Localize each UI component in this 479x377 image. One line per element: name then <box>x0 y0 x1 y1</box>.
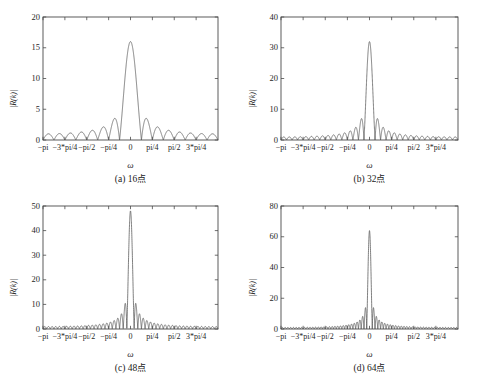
caption-unit-c: 点 <box>137 363 146 373</box>
y-tick-label-b: 40 <box>250 12 278 22</box>
x-tick-label-c: 3*pi/4 <box>174 332 218 341</box>
y-tick-label-c: 20 <box>12 274 40 284</box>
panel-b: |R(k)| ω (b) 32点 010203040−pi−3*pi/4−pi/… <box>239 0 479 188</box>
caption-unit-d: 点 <box>376 363 385 373</box>
x-axis-label-d: ω <box>251 349 479 359</box>
panel-a: |R(k)| ω (a) 16点 05101520−pi−3*pi/4−pi/2… <box>0 0 239 188</box>
y-tick-label-b: 20 <box>250 73 278 83</box>
x-axis-label-b: ω <box>251 160 479 170</box>
y-tick-label-a: 10 <box>12 73 40 83</box>
caption-text-b: (b) 32 <box>354 174 377 184</box>
caption-unit-a: 点 <box>137 174 146 184</box>
panel-caption-c: (c) 48点 <box>12 361 250 374</box>
x-tick-label-a: 3*pi/4 <box>174 143 218 152</box>
panel-c: |R(k)| ω (c) 48点 01020304050−pi−3*pi/4−p… <box>0 188 239 377</box>
y-tick-label-a: 15 <box>12 42 40 52</box>
panel-caption-d: (d) 64点 <box>251 361 479 374</box>
y-tick-label-c: 40 <box>12 225 40 235</box>
y-tick-label-d: 80 <box>250 201 278 211</box>
caption-text-d: (d) 64 <box>354 363 377 373</box>
y-tick-label-d: 20 <box>250 293 278 303</box>
caption-text-a: (a) 16 <box>115 174 137 184</box>
y-tick-label-b: 10 <box>250 104 278 114</box>
x-tick-label-b: 3*pi/4 <box>414 143 458 152</box>
y-tick-label-c: 50 <box>12 201 40 211</box>
caption-unit-b: 点 <box>376 174 385 184</box>
y-tick-label-c: 10 <box>12 299 40 309</box>
y-tick-label-c: 30 <box>12 250 40 260</box>
y-tick-label-d: 40 <box>250 262 278 272</box>
x-axis-label-a: ω <box>12 160 250 170</box>
y-tick-label-d: 60 <box>250 231 278 241</box>
y-tick-label-a: 5 <box>12 104 40 114</box>
x-axis-label-c: ω <box>12 349 250 359</box>
panel-caption-b: (b) 32点 <box>251 172 479 185</box>
panel-d: |R(k)| ω (d) 64点 020406080−pi−3*pi/4−pi/… <box>239 188 479 377</box>
y-tick-label-a: 20 <box>12 12 40 22</box>
caption-text-c: (c) 48 <box>115 363 137 373</box>
y-tick-label-b: 30 <box>250 42 278 52</box>
panel-caption-a: (a) 16点 <box>12 172 250 185</box>
figure-container: |R(k)| ω (a) 16点 05101520−pi−3*pi/4−pi/2… <box>0 0 479 377</box>
x-tick-label-d: 3*pi/4 <box>414 332 458 341</box>
